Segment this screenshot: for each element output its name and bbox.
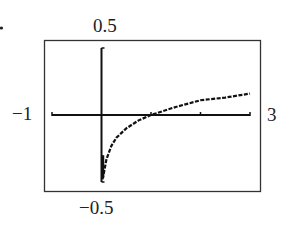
plot-area — [0, 0, 289, 227]
bullet-dot — [0, 26, 3, 29]
curve-path — [102, 94, 250, 180]
function-curve — [102, 94, 250, 180]
